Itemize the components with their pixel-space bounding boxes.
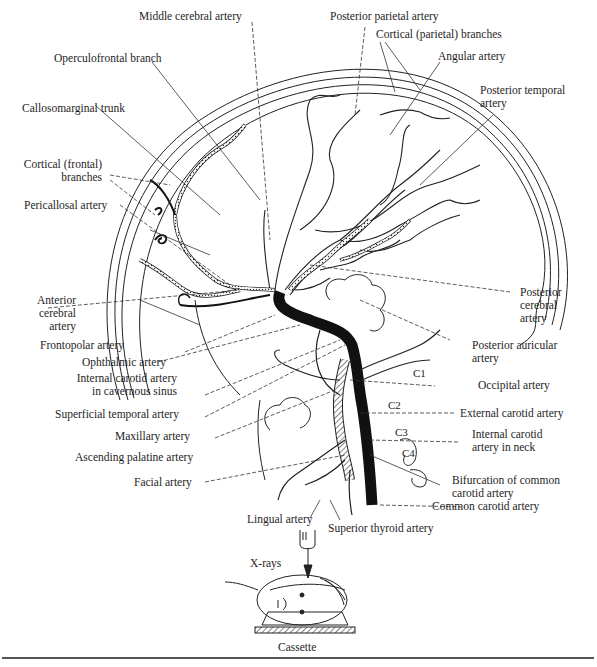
label-line: artery xyxy=(20,320,76,333)
label-lingual-artery: Lingual artery xyxy=(247,513,312,526)
label-anterior-cerebral-artery: Anterior cerebral artery xyxy=(20,294,76,333)
label-line: in cavernous sinus xyxy=(40,385,177,398)
label-superficial-temporal-artery: Superficial temporal artery xyxy=(55,408,179,421)
label-external-carotid-artery: External carotid artery xyxy=(460,407,563,420)
label-line: artery xyxy=(472,352,557,365)
label-frontopolar-artery: Frontopolar artery xyxy=(40,339,124,352)
patient-head-icon xyxy=(225,575,347,625)
label-line: carotid artery xyxy=(452,487,560,500)
label-bifurcation-common-carotid: Bifurcation of common carotid artery xyxy=(452,474,560,500)
label-internal-carotid-neck: Internal carotid artery in neck xyxy=(472,428,543,454)
label-maxillary-artery: Maxillary artery xyxy=(115,430,190,443)
bottom-rule xyxy=(2,657,594,659)
internal-carotid-artery xyxy=(279,292,372,505)
label-occipital-artery: Occipital artery xyxy=(478,379,550,392)
cassette-icon xyxy=(255,612,355,633)
label-cassette: Cassette xyxy=(278,641,316,654)
label-line: Internal carotid xyxy=(472,428,543,441)
label-callosomarginal-trunk: Callosomarginal trunk xyxy=(22,102,125,115)
vertebra-label-c2: C2 xyxy=(388,399,401,411)
frontal-branches xyxy=(150,180,175,243)
label-line: cerebral xyxy=(20,307,76,320)
soft-tissue-outlines xyxy=(195,275,426,487)
label-posterior-parietal-artery: Posterior parietal artery xyxy=(330,10,439,23)
vertebra-label-c4: C4 xyxy=(402,447,415,459)
label-internal-carotid-cavernous: Internal carotid artery in cavernous sin… xyxy=(40,372,177,398)
label-line: Posterior temporal xyxy=(480,84,565,97)
label-line: Bifurcation of common xyxy=(452,474,560,487)
label-line: Posterior auricular xyxy=(472,339,557,352)
label-line: Internal carotid artery xyxy=(40,372,177,385)
label-angular-artery: Angular artery xyxy=(438,50,505,63)
label-line: artery xyxy=(520,312,562,325)
vertebra-label-c1: C1 xyxy=(413,367,426,379)
solid-leader-lines xyxy=(95,42,493,520)
label-posterior-cerebral-artery: Posterior cerebral artery xyxy=(520,286,562,325)
label-line: Anterior xyxy=(20,294,76,307)
label-line: artery in neck xyxy=(472,441,543,454)
vertebra-label-c3: C3 xyxy=(395,426,408,438)
label-x-rays: X-rays xyxy=(250,557,281,570)
label-line: artery xyxy=(480,97,565,110)
label-ophthalmic-artery: Ophthalmic artery xyxy=(82,356,166,369)
label-line: cerebral xyxy=(520,299,562,312)
label-line: Cortical (frontal) xyxy=(12,158,102,171)
cerebral-arteries xyxy=(264,95,480,295)
label-operculofrontal-branch: Operculofrontal branch xyxy=(54,52,162,65)
label-middle-cerebral-artery: Middle cerebral artery xyxy=(139,10,242,23)
label-posterior-temporal-artery: Posterior temporal artery xyxy=(480,84,565,110)
label-line: branches xyxy=(12,171,102,184)
xray-tube-icon xyxy=(300,530,315,578)
label-cortical-parietal-branches: Cortical (parietal) branches xyxy=(376,28,502,41)
label-posterior-auricular-artery: Posterior auricular artery xyxy=(472,339,557,365)
label-superior-thyroid-artery: Superior thyroid artery xyxy=(328,522,433,535)
anterior-cerebral-dotted xyxy=(140,125,410,296)
label-line: Posterior xyxy=(520,286,562,299)
label-common-carotid-artery: Common carotid artery xyxy=(432,500,539,513)
label-pericallosal-artery: Pericallosal artery xyxy=(24,199,107,212)
label-facial-artery: Facial artery xyxy=(134,476,192,489)
label-ascending-palatine-artery: Ascending palatine artery xyxy=(75,451,193,464)
label-cortical-frontal-branches: Cortical (frontal) branches xyxy=(12,158,102,184)
